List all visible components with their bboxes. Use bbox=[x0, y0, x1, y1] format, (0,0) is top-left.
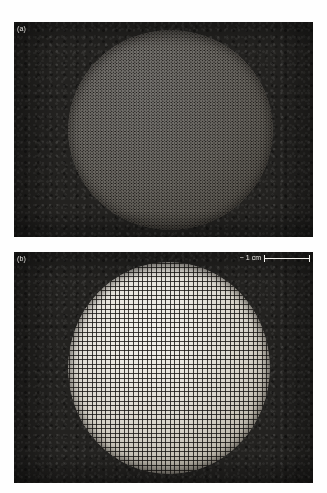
scale-bar-label: ~ 1 cm bbox=[240, 254, 261, 262]
panel-a-micrograph: (a) bbox=[14, 22, 313, 237]
panel-b-label: (b) bbox=[17, 255, 26, 263]
panel-a-label: (a) bbox=[17, 25, 26, 33]
panel-b-micrograph: (b) ~ 1 cm bbox=[14, 252, 313, 483]
figure-container: (a) (b) ~ 1 cm bbox=[0, 0, 327, 493]
panel-a-colloidal-sphere bbox=[68, 30, 273, 230]
scale-bar-rule-group bbox=[264, 255, 310, 262]
scale-bar: ~ 1 cm bbox=[240, 254, 310, 262]
scale-bar-rule bbox=[265, 258, 309, 259]
panel-a-hexagonal-lattice bbox=[68, 30, 273, 230]
scale-bar-right-tick bbox=[309, 255, 310, 262]
panel-b-square-lattice bbox=[68, 262, 270, 474]
panel-b-colloidal-sphere bbox=[68, 262, 270, 474]
